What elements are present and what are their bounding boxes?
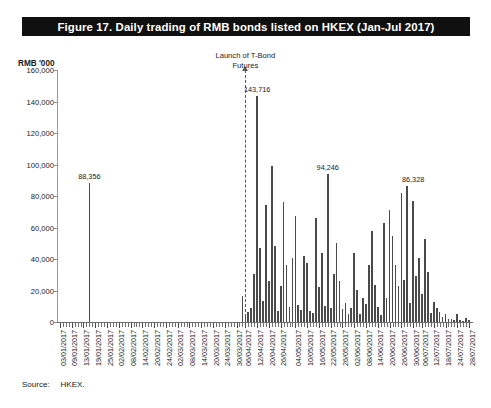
- bar: [436, 308, 438, 322]
- x-axis-tick-mark: [83, 323, 84, 328]
- x-axis-tick-label: 18/07/2017: [444, 330, 453, 366]
- bar: [268, 281, 270, 322]
- bar: [383, 223, 385, 322]
- x-axis-tick-label: 19/01/2017: [93, 330, 102, 366]
- x-axis-tick-mark: [207, 323, 208, 327]
- x-axis-tick-mark: [434, 323, 435, 328]
- x-axis-tick-mark: [78, 323, 79, 327]
- x-axis-tick-label: 08/06/2017: [364, 330, 373, 366]
- x-axis-tick-mark: [98, 323, 99, 327]
- bar: [386, 298, 388, 322]
- x-axis-tick-mark: [69, 323, 70, 327]
- bar: [333, 274, 335, 322]
- x-axis-tick-mark: [287, 323, 288, 327]
- x-axis-tick-mark: [410, 323, 411, 327]
- x-axis-tick-mark: [95, 323, 96, 328]
- bar: [277, 311, 279, 322]
- x-axis-tick-label: 03/01/2017: [58, 330, 67, 366]
- x-axis-tick-mark: [378, 323, 379, 328]
- x-axis-tick-mark: [251, 323, 252, 327]
- y-axis-tick-label: 80,000: [31, 192, 54, 201]
- bar: [353, 253, 355, 322]
- x-axis-tick-mark: [134, 323, 135, 327]
- x-axis-tick-mark: [466, 323, 467, 327]
- x-axis-tick-mark: [157, 323, 158, 327]
- x-axis-tick-mark: [348, 323, 349, 327]
- bar: [336, 243, 338, 322]
- x-axis-tick-label: 06/07/2017: [420, 330, 429, 366]
- x-axis-tick-marks: [57, 323, 473, 328]
- x-axis-tick-mark: [234, 323, 235, 327]
- x-axis-tick-mark: [195, 323, 196, 327]
- x-axis-tick-mark: [316, 323, 317, 327]
- x-axis-tick-mark: [284, 323, 285, 327]
- x-axis-tick-mark: [428, 323, 429, 327]
- event-annotation-line: Launch of T-Bond: [215, 51, 275, 61]
- bar: [265, 205, 267, 322]
- bar: [292, 258, 294, 322]
- x-axis-tick-label: 26/06/2017: [399, 330, 408, 366]
- x-axis-tick-mark: [448, 323, 449, 327]
- event-annotation-line: Futures: [215, 61, 275, 71]
- bar: [295, 216, 297, 322]
- x-axis-tick-label: 10/05/2017: [305, 330, 314, 366]
- x-axis-tick-label: 12/07/2017: [432, 330, 441, 366]
- x-axis-tick-mark: [331, 323, 332, 328]
- data-label: 86,328: [402, 175, 424, 184]
- bar: [389, 210, 391, 322]
- x-axis-tick-mark: [145, 323, 146, 327]
- y-axis-tick-labels: 020,00040,00060,00080,000100,000120,0001…: [0, 0, 54, 408]
- x-axis-tick-mark: [443, 323, 444, 327]
- x-axis-tick-mark: [245, 323, 246, 328]
- x-axis-tick-mark: [395, 323, 396, 327]
- figure-title-banner: Figure 17. Daily trading of RMB bonds li…: [22, 17, 470, 36]
- x-axis-tick-mark: [263, 323, 264, 327]
- bar: [371, 231, 373, 322]
- bar: [439, 312, 441, 322]
- y-axis-tick-mark: [54, 322, 57, 323]
- bar: [289, 307, 291, 322]
- x-axis-tick-mark: [228, 323, 229, 327]
- bar: [339, 281, 341, 322]
- x-axis-tick-mark: [290, 323, 291, 327]
- bar: [403, 280, 405, 322]
- y-axis-tick-label: 160,000: [27, 66, 54, 75]
- x-axis-tick-mark: [328, 323, 329, 327]
- x-axis-tick-mark: [116, 323, 117, 327]
- bar: [321, 253, 323, 322]
- bar: [247, 312, 249, 322]
- x-axis-tick-mark: [260, 323, 261, 327]
- x-axis-tick-mark: [113, 323, 114, 327]
- x-axis-tick-label: 02/02/2017: [117, 330, 126, 366]
- bar: [309, 311, 311, 322]
- bar: [253, 274, 255, 322]
- chart-plot-area: 88,356143,71694,24686,328: [57, 70, 472, 322]
- bar: [368, 265, 370, 322]
- x-axis-tick-mark: [166, 323, 167, 328]
- x-axis-tick-mark: [125, 323, 126, 327]
- x-axis-tick-mark: [372, 323, 373, 327]
- bar: [424, 239, 426, 322]
- x-axis-tick-mark: [381, 323, 382, 327]
- x-axis-tick-label: 28/07/2017: [467, 330, 476, 366]
- x-axis-tick-mark: [454, 323, 455, 327]
- bar: [297, 305, 299, 322]
- y-axis-tick-mark: [54, 102, 57, 103]
- y-axis-tick-label: 140,000: [27, 97, 54, 106]
- y-axis-tick-mark: [54, 133, 57, 134]
- y-axis-tick-label: 40,000: [31, 255, 54, 264]
- event-annotation-text: Launch of T-BondFutures: [215, 51, 275, 70]
- x-axis-tick-mark: [122, 323, 123, 327]
- bar: [459, 320, 461, 322]
- bar: [330, 308, 332, 322]
- x-axis-tick-label: 20/02/2017: [152, 330, 161, 366]
- y-axis-tick-label: 100,000: [27, 160, 54, 169]
- x-axis-tick-mark: [310, 323, 311, 327]
- x-axis-tick-mark: [369, 323, 370, 327]
- x-axis-tick-label: 09/01/2017: [70, 330, 79, 366]
- bar: [448, 319, 450, 322]
- x-axis-tick-mark: [354, 323, 355, 328]
- source-label: Source:: [22, 380, 50, 389]
- x-axis-tick-mark: [104, 323, 105, 327]
- x-axis-tick-label: 30/03/2017: [235, 330, 244, 366]
